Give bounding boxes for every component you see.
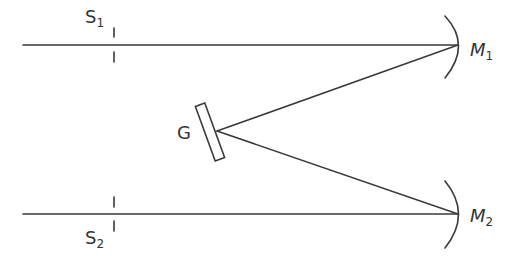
label-s1: S1 [85, 6, 104, 30]
beam-grating-to-m2 [217, 131, 458, 214]
label-m2: M2 [470, 205, 493, 229]
label-g: G [177, 122, 191, 143]
beam-m1-to-grating [217, 45, 458, 131]
label-s2: S2 [85, 227, 104, 251]
label-m1: M1 [470, 39, 493, 63]
spectrometer-diagram: S1 S2 G M1 M2 [0, 0, 515, 261]
